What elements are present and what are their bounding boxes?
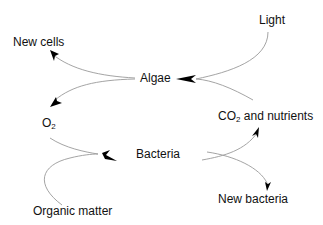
arrowhead-co2 (252, 127, 259, 138)
node-algae-label: Algae (140, 71, 171, 85)
arrowhead-o2 (50, 97, 62, 107)
edge-bacteria-to-co2 (202, 133, 257, 160)
node-organic-matter-label: Organic matter (33, 204, 112, 218)
edge-algae-to-o2 (55, 79, 135, 100)
arrowhead-algae-in (176, 75, 196, 83)
node-o2-label: O (42, 116, 51, 130)
algae-bacteria-cycle-diagram: Light New cells Algae O2 CO2 and nutrien… (0, 0, 323, 225)
node-new-cells: New cells (13, 35, 64, 49)
node-algae: Algae (140, 71, 171, 85)
node-co2-label: CO (218, 109, 236, 123)
node-bacteria: Bacteria (136, 147, 180, 161)
node-bacteria-label: Bacteria (136, 147, 180, 161)
node-co2-nutrients: CO2 and nutrients (218, 109, 313, 123)
node-new-bacteria-label: New bacteria (218, 192, 288, 206)
edge-organic-to-bacteria (44, 154, 98, 205)
arrowhead-new-bacteria (265, 182, 271, 191)
node-o2-subscript: 2 (51, 122, 55, 131)
node-light: Light (259, 13, 285, 27)
edge-o2-to-bacteria (50, 138, 98, 154)
node-light-label: Light (259, 13, 285, 27)
node-o2: O2 (42, 116, 56, 130)
node-new-cells-label: New cells (13, 35, 64, 49)
node-organic-matter: Organic matter (33, 204, 112, 218)
node-co2-suffix: and nutrients (240, 109, 313, 123)
arrowhead-bacteria-in (102, 150, 117, 161)
edge-co2-to-algae (196, 79, 253, 100)
edge-algae-to-new-cells (52, 54, 135, 78)
edge-light-to-algae (196, 32, 268, 79)
node-new-bacteria: New bacteria (218, 192, 288, 206)
arrowhead-new-cells (50, 50, 59, 61)
